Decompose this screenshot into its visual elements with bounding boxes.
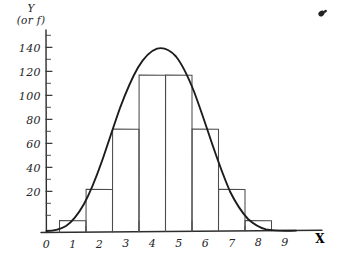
y-tick-label-40: 40 <box>25 162 41 175</box>
bar-5 <box>166 75 193 232</box>
x-tick-label-2: 2 <box>95 238 103 251</box>
bar-2 <box>86 189 113 232</box>
y-tick-label-120: 120 <box>19 66 41 79</box>
ink-smudge-mark <box>317 9 327 17</box>
bar-3 <box>113 129 140 232</box>
x-tick-label-4: 4 <box>148 237 156 250</box>
y-tick-label-140: 140 <box>19 42 41 55</box>
x-tick-label-0: 0 <box>43 238 50 251</box>
bar-4 <box>139 75 166 232</box>
y-tick-label-80: 80 <box>26 114 41 127</box>
x-tick-label-5: 5 <box>175 237 182 250</box>
x-axis-title: X <box>315 232 325 246</box>
y-tick-label-100: 100 <box>19 90 41 103</box>
x-tick-label-1: 1 <box>69 238 76 251</box>
y-axis-title: Y <box>27 2 35 14</box>
histogram-with-normal-curve: Y (or f) 140 120 100 80 60 40 20 <box>0 0 346 262</box>
x-tick-label-3: 3 <box>122 237 129 250</box>
x-tick-label-8: 8 <box>255 236 262 249</box>
x-tick-label-9: 9 <box>281 236 288 249</box>
y-tick-label-20: 20 <box>25 186 41 199</box>
x-tick-label-7: 7 <box>228 237 235 250</box>
y-axis-title-secondary: (or f) <box>17 14 46 26</box>
bar-6 <box>192 129 219 231</box>
y-tick-label-60: 60 <box>26 138 41 151</box>
x-tick-label-6: 6 <box>202 237 209 250</box>
